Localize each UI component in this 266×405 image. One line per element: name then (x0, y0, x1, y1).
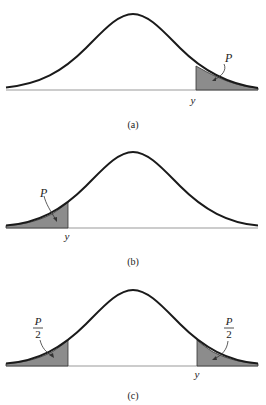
bell-curve-a (6, 14, 258, 88)
caption-b: (b) (127, 256, 139, 268)
normal-distribution-figure: P y (a) P y (b) P 2 P 2 y (c) (0, 0, 266, 405)
cut-label-b: y (64, 230, 70, 242)
area-label-left-numerator: P (34, 315, 42, 327)
area-label-a: P (224, 51, 233, 65)
caption-c: (c) (127, 390, 138, 402)
area-label-right-denominator: 2 (226, 328, 232, 340)
panel-c: P 2 P 2 y (c) (6, 290, 258, 402)
bell-curve-c (6, 290, 258, 364)
cut-label-a: y (190, 94, 196, 106)
area-label-right-numerator: P (225, 315, 233, 327)
area-label-left-denominator: 2 (35, 328, 41, 340)
cut-label-c: y (194, 368, 200, 380)
area-label-b: P (39, 186, 48, 200)
panel-b: P y (b) (6, 152, 258, 268)
caption-a: (a) (127, 119, 138, 131)
panel-a: P y (a) (6, 14, 258, 131)
